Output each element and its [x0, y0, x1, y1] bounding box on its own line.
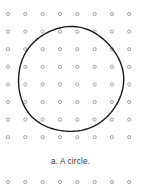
- figure-caption: a. A circle.: [0, 157, 141, 167]
